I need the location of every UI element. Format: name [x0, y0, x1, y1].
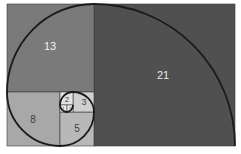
label-8: 8 [30, 114, 36, 125]
label-13: 13 [44, 40, 56, 52]
label-21: 21 [157, 69, 169, 81]
label-5: 5 [74, 123, 80, 134]
fibonacci-diagram: 21 13 8 5 3 2 1 1 [0, 0, 241, 154]
label-3: 3 [81, 97, 86, 107]
label-1b: 1 [69, 106, 72, 112]
label-1a: 1 [62, 106, 65, 112]
label-2: 2 [65, 95, 70, 104]
